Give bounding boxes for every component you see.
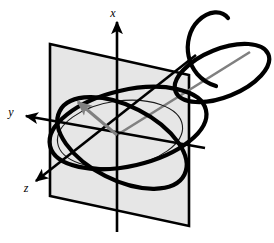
diagram-svg: x y z — [0, 0, 274, 243]
figure-canvas: x y z — [0, 0, 274, 243]
x-axis-label: x — [109, 6, 116, 20]
z-axis-label: z — [23, 181, 29, 195]
shaded-plane — [50, 44, 189, 226]
y-axis-label: y — [7, 105, 14, 119]
